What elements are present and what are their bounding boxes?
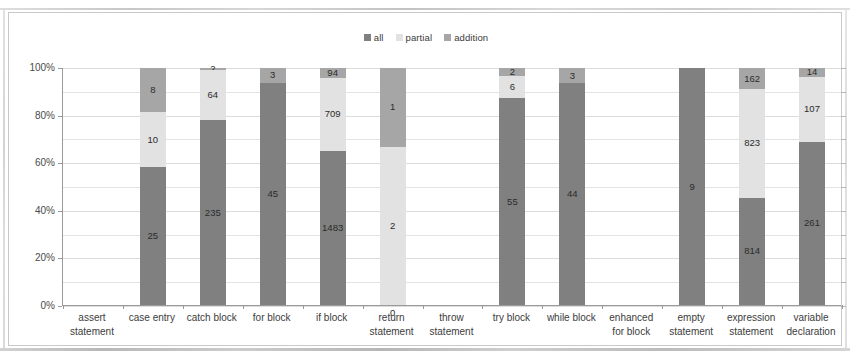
bar-value-label: 107	[804, 104, 820, 114]
x-label-line: enhanced	[601, 311, 661, 325]
stacked-bar[interactable]: 345	[260, 68, 286, 305]
bar-segment-all[interactable]: 814	[739, 198, 765, 305]
bar-value-label: 814	[744, 246, 760, 256]
bar-segment-addition[interactable]: 162	[739, 68, 765, 89]
bar-segment-partial[interactable]: 6	[499, 76, 525, 99]
bar-segment-all[interactable]: 44	[559, 83, 585, 305]
bar-segment-addition[interactable]: 3	[559, 68, 585, 83]
bar-segment-addition[interactable]: 8	[140, 68, 166, 112]
bar-value-label: 3	[270, 70, 275, 80]
bar-value-label: 261	[804, 218, 820, 228]
x-tick-mark-7	[482, 305, 483, 309]
x-axis-tick-labels: assertstatementcase entrycatch blockfor …	[62, 311, 841, 357]
bar-segment-partial[interactable]: 10	[140, 112, 166, 167]
x-tick-mark-0	[63, 305, 64, 309]
bar-group-assert-statement[interactable]	[63, 68, 123, 305]
y-tick-mark-100	[58, 68, 62, 69]
bar-segment-all[interactable]: 261	[799, 142, 825, 305]
x-label-line: if block	[302, 311, 362, 325]
stacked-bar[interactable]: 2655	[499, 68, 525, 305]
x-label-line: case entry	[122, 311, 182, 325]
bar-group-enhanced-for-block[interactable]	[602, 68, 662, 305]
stacked-bar[interactable]: 120	[380, 68, 406, 305]
x-label-line: statement	[721, 325, 781, 339]
x-tick-mark-2	[183, 305, 184, 309]
bar-value-label: 94	[327, 68, 338, 78]
bar-segment-partial[interactable]: 64	[200, 70, 226, 120]
scan-edge-left	[3, 10, 5, 348]
bar-segment-all[interactable]: 1483	[320, 151, 346, 305]
bar-group-for-block[interactable]: 345	[243, 68, 303, 305]
bar-group-variable-declaration[interactable]: 14107261	[782, 68, 842, 305]
bar-segment-partial[interactable]: 107	[799, 77, 825, 142]
x-label-expression-statement: expressionstatement	[721, 311, 781, 339]
stacked-bar[interactable]: 947091483	[320, 68, 346, 305]
bar-value-label: 25	[148, 231, 159, 241]
stacked-bar[interactable]: 264235	[200, 68, 226, 305]
bar-group-catch-block[interactable]: 264235	[183, 68, 243, 305]
bar-group-expression-statement[interactable]: 162823814	[722, 68, 782, 305]
x-label-for-block: for block	[242, 311, 302, 325]
bar-segment-addition[interactable]: 2	[499, 68, 525, 76]
x-label-empty-statement: emptystatement	[661, 311, 721, 339]
legend-label-addition: addition	[454, 33, 488, 42]
y-tick-mark-0	[58, 306, 62, 307]
bar-value-label: 1483	[322, 223, 343, 233]
legend-swatch-partial	[396, 34, 403, 41]
bar-group-return-statement[interactable]: 120	[363, 68, 423, 305]
x-label-line: expression	[721, 311, 781, 325]
bar-value-label: 55	[507, 197, 518, 207]
bar-group-case-entry[interactable]: 81025	[123, 68, 183, 305]
bar-segment-all[interactable]: 55	[499, 98, 525, 305]
y-tick-mark-40	[58, 211, 62, 212]
legend-item-partial[interactable]: partial	[396, 33, 433, 42]
bar-segment-partial[interactable]: 2	[380, 147, 406, 305]
x-tick-mark-10	[662, 305, 663, 309]
y-tick-label-80: 80%	[9, 110, 55, 121]
y-tick-label-40: 40%	[9, 205, 55, 216]
x-label-throw-statement: throwstatement	[422, 311, 482, 339]
stacked-bar[interactable]: 9	[679, 68, 705, 305]
bar-segment-all[interactable]: 9	[679, 68, 705, 305]
stacked-bar[interactable]: 344	[559, 68, 585, 305]
bar-segment-all[interactable]: 235	[200, 120, 226, 305]
bars-layer: 8102526423534594709148312026553449162823…	[63, 68, 841, 305]
bar-value-label: 162	[744, 74, 760, 84]
bar-segment-addition[interactable]: 94	[320, 68, 346, 78]
bar-segment-addition[interactable]: 1	[380, 68, 406, 147]
stacked-bar[interactable]: 14107261	[799, 68, 825, 305]
scan-edge-top	[0, 8, 850, 10]
stacked-bar[interactable]: 162823814	[739, 68, 765, 305]
x-tick-mark-5	[363, 305, 364, 309]
y-tick-label-60: 60%	[9, 157, 55, 168]
bar-segment-partial[interactable]: 709	[320, 78, 346, 151]
bar-segment-partial[interactable]: 823	[739, 89, 765, 197]
x-label-case-entry: case entry	[122, 311, 182, 325]
legend-label-partial: partial	[406, 33, 433, 42]
bar-value-label: 235	[205, 208, 221, 218]
legend-item-addition[interactable]: addition	[444, 33, 488, 42]
x-label-line: declaration	[781, 325, 841, 339]
bar-group-try-block[interactable]: 2655	[482, 68, 542, 305]
x-label-enhanced-for-block: enhancedfor block	[601, 311, 661, 339]
legend-swatch-all	[364, 34, 371, 41]
x-tick-mark-8	[542, 305, 543, 309]
bar-segment-addition[interactable]: 14	[799, 68, 825, 77]
bar-segment-all[interactable]: 45	[260, 83, 286, 305]
bar-value-label: 1	[390, 102, 395, 112]
bar-value-label: 823	[744, 138, 760, 148]
legend-item-all[interactable]: all	[364, 33, 384, 42]
stacked-bar[interactable]: 81025	[140, 68, 166, 305]
bar-value-label: 10	[148, 135, 159, 145]
bar-group-while-block[interactable]: 344	[542, 68, 602, 305]
bar-segment-addition[interactable]: 3	[260, 68, 286, 83]
x-label-return-statement: returnstatement	[362, 311, 422, 339]
x-label-try-block: try block	[481, 311, 541, 325]
bar-value-label: 8	[150, 85, 155, 95]
bar-group-if-block[interactable]: 947091483	[303, 68, 363, 305]
bar-group-throw-statement[interactable]	[423, 68, 483, 305]
bar-segment-all[interactable]: 25	[140, 167, 166, 305]
x-label-line: variable	[781, 311, 841, 325]
bar-group-empty-statement[interactable]: 9	[662, 68, 722, 305]
bar-value-label: 2	[390, 221, 395, 231]
